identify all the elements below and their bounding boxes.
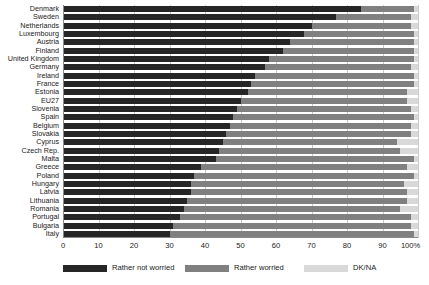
bar-segment[interactable] <box>63 106 237 112</box>
bar-segment[interactable] <box>400 206 418 212</box>
bar-segment[interactable] <box>187 198 407 204</box>
bar-segment[interactable] <box>191 189 408 195</box>
bar-segment[interactable] <box>63 223 173 229</box>
bar-segment[interactable] <box>63 214 180 220</box>
bar-segment[interactable] <box>63 123 230 129</box>
bar-segment[interactable] <box>63 164 201 170</box>
bar-row[interactable] <box>63 14 418 20</box>
bar-row[interactable] <box>63 23 418 29</box>
bar-row[interactable] <box>63 181 418 187</box>
bar-row[interactable] <box>63 148 418 154</box>
bar-segment[interactable] <box>233 114 414 120</box>
bar-segment[interactable] <box>407 189 418 195</box>
bar-segment[interactable] <box>63 64 265 70</box>
bar-segment[interactable] <box>290 39 414 45</box>
bar-segment[interactable] <box>63 131 226 137</box>
bar-segment[interactable] <box>404 181 418 187</box>
bar-segment[interactable] <box>63 114 233 120</box>
bar-segment[interactable] <box>63 181 191 187</box>
bar-row[interactable] <box>63 48 418 54</box>
bar-segment[interactable] <box>265 64 411 70</box>
legend-item[interactable]: DK/NA <box>304 262 376 274</box>
bar-segment[interactable] <box>63 139 223 145</box>
bar-segment[interactable] <box>414 39 418 45</box>
bar-row[interactable] <box>63 214 418 220</box>
bar-segment[interactable] <box>414 81 418 87</box>
bar-segment[interactable] <box>63 81 251 87</box>
bar-segment[interactable] <box>411 123 418 129</box>
bar-row[interactable] <box>63 56 418 62</box>
bar-segment[interactable] <box>63 56 269 62</box>
bar-segment[interactable] <box>414 231 418 237</box>
bar-segment[interactable] <box>414 114 418 120</box>
bar-segment[interactable] <box>63 148 219 154</box>
bar-row[interactable] <box>63 114 418 120</box>
bar-segment[interactable] <box>397 139 418 145</box>
bar-segment[interactable] <box>194 173 414 179</box>
bar-row[interactable] <box>63 231 418 237</box>
legend-item[interactable]: Rather not worried <box>63 262 174 274</box>
bar-segment[interactable] <box>414 6 418 12</box>
bar-segment[interactable] <box>191 181 404 187</box>
bar-segment[interactable] <box>63 39 290 45</box>
bar-segment[interactable] <box>312 23 411 29</box>
bar-segment[interactable] <box>63 98 241 104</box>
bar-segment[interactable] <box>63 231 170 237</box>
bar-segment[interactable] <box>219 148 400 154</box>
bar-segment[interactable] <box>304 31 414 37</box>
bar-segment[interactable] <box>411 214 418 220</box>
bar-row[interactable] <box>63 89 418 95</box>
bar-segment[interactable] <box>241 98 408 104</box>
bar-segment[interactable] <box>283 48 414 54</box>
bar-row[interactable] <box>63 173 418 179</box>
bar-row[interactable] <box>63 31 418 37</box>
bar-segment[interactable] <box>269 56 415 62</box>
bar-segment[interactable] <box>411 131 418 137</box>
bar-segment[interactable] <box>336 14 411 20</box>
bar-segment[interactable] <box>63 173 194 179</box>
bar-segment[interactable] <box>414 56 418 62</box>
legend-item[interactable]: Rather worried <box>185 262 284 274</box>
bar-row[interactable] <box>63 123 418 129</box>
bar-segment[interactable] <box>414 73 418 79</box>
bar-segment[interactable] <box>407 198 418 204</box>
bar-segment[interactable] <box>400 148 418 154</box>
bar-row[interactable] <box>63 223 418 229</box>
bar-row[interactable] <box>63 156 418 162</box>
bar-segment[interactable] <box>407 164 418 170</box>
bar-segment[interactable] <box>361 6 414 12</box>
bar-row[interactable] <box>63 81 418 87</box>
bar-segment[interactable] <box>63 48 283 54</box>
bar-segment[interactable] <box>226 131 411 137</box>
bar-segment[interactable] <box>180 214 411 220</box>
bar-segment[interactable] <box>63 189 191 195</box>
bar-row[interactable] <box>63 39 418 45</box>
bar-segment[interactable] <box>184 206 401 212</box>
bar-segment[interactable] <box>411 64 418 70</box>
bar-row[interactable] <box>63 131 418 137</box>
bar-segment[interactable] <box>223 139 397 145</box>
bar-segment[interactable] <box>411 14 418 20</box>
bar-segment[interactable] <box>63 14 336 20</box>
bar-segment[interactable] <box>63 89 248 95</box>
bar-segment[interactable] <box>201 164 407 170</box>
bar-row[interactable] <box>63 6 418 12</box>
bar-row[interactable] <box>63 73 418 79</box>
bar-segment[interactable] <box>251 81 414 87</box>
bar-segment[interactable] <box>414 31 418 37</box>
bar-row[interactable] <box>63 139 418 145</box>
bar-row[interactable] <box>63 189 418 195</box>
bar-segment[interactable] <box>216 156 415 162</box>
bar-segment[interactable] <box>255 73 415 79</box>
bar-row[interactable] <box>63 198 418 204</box>
bar-row[interactable] <box>63 206 418 212</box>
bar-segment[interactable] <box>170 231 415 237</box>
bar-segment[interactable] <box>230 123 411 129</box>
bar-segment[interactable] <box>63 23 312 29</box>
bar-segment[interactable] <box>407 89 418 95</box>
bar-segment[interactable] <box>237 106 411 112</box>
bar-segment[interactable] <box>63 73 255 79</box>
bar-row[interactable] <box>63 98 418 104</box>
bar-row[interactable] <box>63 164 418 170</box>
bar-segment[interactable] <box>407 98 418 104</box>
